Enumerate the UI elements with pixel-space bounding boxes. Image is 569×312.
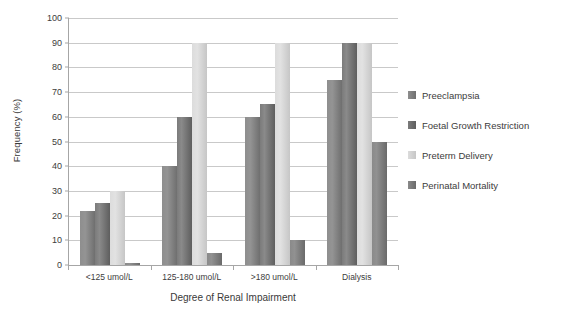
x-tick-label: Dialysis <box>316 272 399 282</box>
y-tick-label-10: 10 <box>52 235 62 245</box>
x-tick-label: 125-180 umol/L <box>151 272 234 282</box>
bar <box>207 253 222 265</box>
category-tick <box>68 265 69 270</box>
category-tick <box>316 265 317 270</box>
bar <box>177 117 192 265</box>
y-tick-label-90: 90 <box>52 38 62 48</box>
bar <box>372 142 387 266</box>
bar <box>275 43 290 265</box>
bar <box>162 166 177 265</box>
legend-label: Foetal Growth Restriction <box>422 120 529 131</box>
category-tick <box>233 265 234 270</box>
bar <box>245 117 260 265</box>
y-tick-label-40: 40 <box>52 161 62 171</box>
bar <box>342 43 357 265</box>
bar-groups <box>69 18 398 265</box>
category-tick-marks <box>68 265 398 270</box>
bar <box>80 211 95 265</box>
y-axis-title-text: Frequency (%) <box>12 98 23 162</box>
legend-swatch-icon <box>408 91 416 99</box>
bar <box>260 104 275 265</box>
legend-item[interactable]: Preeclampsia <box>408 80 566 110</box>
x-tick-label: <125 umol/L <box>68 272 151 282</box>
bar <box>192 43 207 265</box>
bar-group <box>151 18 233 265</box>
legend-item[interactable]: Preterm Delivery <box>408 140 566 170</box>
y-tick-label-70: 70 <box>52 87 62 97</box>
bar <box>110 191 125 265</box>
category-tick <box>151 265 152 270</box>
bar <box>327 80 342 265</box>
chart-figure: Frequency (%) 1009080706050403020100 <12… <box>0 0 569 312</box>
y-tick-label-60: 60 <box>52 112 62 122</box>
legend-label: Preeclampsia <box>422 90 480 101</box>
bar-group <box>234 18 316 265</box>
y-tick-label-100: 100 <box>47 13 62 23</box>
legend-label: Perinatal Mortality <box>422 180 498 191</box>
x-axis-tick-labels: <125 umol/L125-180 umol/L>180 umol/LDial… <box>68 272 398 282</box>
bar <box>357 43 372 265</box>
bar-group <box>316 18 398 265</box>
legend-item[interactable]: Perinatal Mortality <box>408 170 566 200</box>
legend-label: Preterm Delivery <box>422 150 493 161</box>
legend-swatch-icon <box>408 121 416 129</box>
legend-swatch-icon <box>408 181 416 189</box>
y-tick-label-80: 80 <box>52 62 62 72</box>
legend-item[interactable]: Foetal Growth Restriction <box>408 110 566 140</box>
bar <box>95 203 110 265</box>
y-tick-label-50: 50 <box>52 137 62 147</box>
chart-legend: PreeclampsiaFoetal Growth RestrictionPre… <box>408 80 566 200</box>
plot-area: 1009080706050403020100 <box>68 18 398 265</box>
y-tick-label-0: 0 <box>57 260 62 270</box>
x-axis-title: Degree of Renal Impairment <box>68 292 398 303</box>
legend-swatch-icon <box>408 151 416 159</box>
x-tick-label: >180 umol/L <box>233 272 316 282</box>
y-axis-title: Frequency (%) <box>6 0 28 260</box>
y-tick-label-20: 20 <box>52 211 62 221</box>
category-tick <box>398 265 399 270</box>
bar <box>290 240 305 265</box>
plot-wrapper: 1009080706050403020100 <box>68 18 398 265</box>
y-tick-label-30: 30 <box>52 186 62 196</box>
bar-group <box>69 18 151 265</box>
